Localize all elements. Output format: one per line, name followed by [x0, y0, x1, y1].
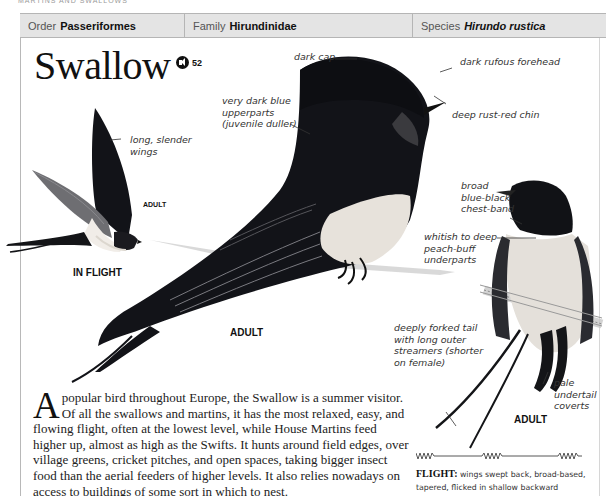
- flight-heading: FLIGHT:: [416, 468, 457, 479]
- annotation-undertail-coverts: pale undertail coverts: [554, 377, 597, 412]
- annotation-line: blue-black: [461, 192, 514, 204]
- species-label: Species: [421, 20, 460, 32]
- taxonomy-family: Family Hirundinidae: [185, 14, 413, 37]
- annotation-line: upperparts: [222, 107, 297, 119]
- annotation-line: whitish to deep: [424, 231, 497, 243]
- annotation-line: broad: [461, 180, 514, 192]
- annotation-underparts: whitish to deep peach-buff underparts: [424, 231, 497, 266]
- annotation-line: coverts: [554, 400, 597, 412]
- caption-main-adult: ADULT: [230, 327, 263, 338]
- flight-pattern-icon: [416, 450, 602, 462]
- annotation-chest-band: broad blue-black chest-band: [461, 180, 514, 215]
- taxonomy-bar: Order Passeriformes Family Hirundinidae …: [20, 13, 606, 38]
- annotation-line: very dark blue: [222, 95, 297, 107]
- annotation-line: pale: [554, 377, 597, 389]
- family-label: Family: [193, 20, 225, 32]
- annotation-dark-cap: dark cap: [294, 51, 335, 63]
- species-value: Hirundo rustica: [464, 20, 545, 32]
- page-title: Swallow: [34, 46, 171, 86]
- order-value: Passeriformes: [60, 20, 136, 32]
- annotation-line: underparts: [424, 254, 497, 266]
- flight-column-rule: [599, 38, 600, 496]
- drop-cap: A: [33, 391, 60, 421]
- annotation-line: deeply forked tail: [394, 322, 483, 334]
- order-label: Order: [28, 20, 56, 32]
- annotation-line: chest-band: [461, 203, 514, 215]
- speaker-icon[interactable]: [176, 56, 189, 69]
- annotation-line: on female): [394, 357, 483, 369]
- family-value: Hirundinidae: [229, 20, 296, 32]
- audio-reference[interactable]: 52: [176, 56, 202, 69]
- annotation-line: wings: [130, 146, 192, 158]
- running-head: MARTINS AND SWALLOWS: [18, 0, 128, 4]
- annotation-long-slender-wings: long, slender wings: [130, 134, 192, 157]
- annotation-dark-rufous-forehead: dark rufous forehead: [460, 56, 560, 68]
- taxonomy-order: Order Passeriformes: [20, 14, 185, 37]
- annotation-line: long, slender: [130, 134, 192, 146]
- caption-front-adult: ADULT: [514, 414, 547, 425]
- species-description: A popular bird throughout Europe, the Sw…: [33, 390, 413, 496]
- flight-description: FLIGHT: wings swept back, broad-based, t…: [416, 467, 602, 496]
- annotation-line: undertail: [554, 389, 597, 401]
- taxonomy-species: Species Hirundo rustica: [413, 14, 606, 37]
- caption-in-flight: IN FLIGHT: [73, 267, 122, 278]
- annotation-line: streamers (shorter: [394, 345, 483, 357]
- annotation-deep-rust-red-chin: deep rust-red chin: [452, 109, 540, 121]
- description-text: popular bird throughout Europe, the Swal…: [33, 390, 409, 496]
- caption-flight-adult: ADULT: [143, 201, 166, 208]
- annotation-line: (juvenile duller): [222, 118, 297, 130]
- annotation-line: peach-buff: [424, 243, 497, 255]
- annotation-very-dark-blue-upperparts: very dark blue upperparts (juvenile dull…: [222, 95, 297, 130]
- annotation-line: with long outer: [394, 334, 483, 346]
- annotation-forked-tail: deeply forked tail with long outer strea…: [394, 322, 483, 368]
- audio-track-number: 52: [192, 58, 202, 68]
